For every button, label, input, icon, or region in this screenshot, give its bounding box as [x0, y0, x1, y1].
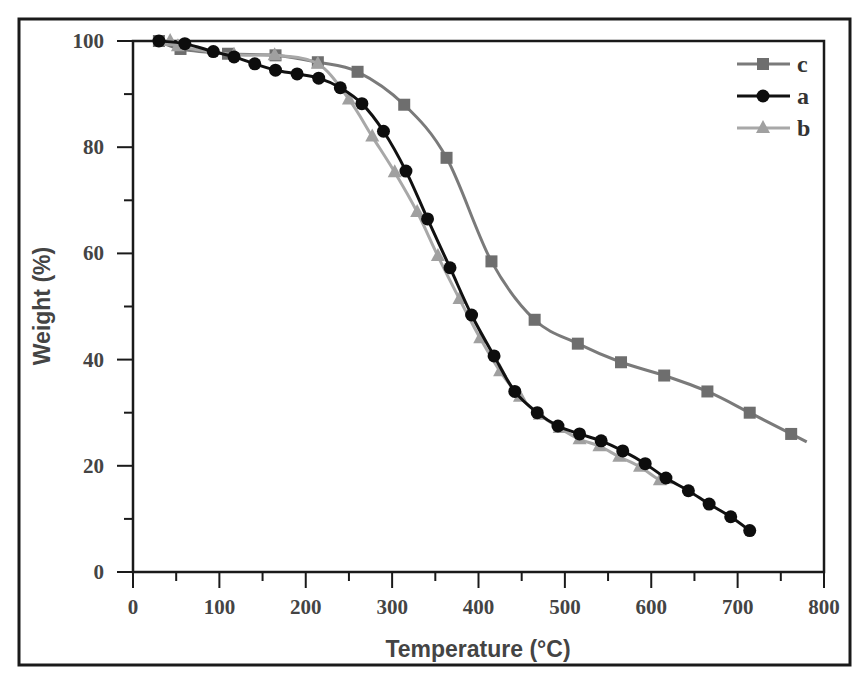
circle-marker [178, 37, 191, 50]
circle-marker [443, 261, 456, 274]
y-tick-label: 60 [83, 241, 104, 265]
circle-marker [377, 125, 390, 138]
circle-marker [724, 510, 737, 523]
circle-marker [421, 212, 434, 225]
y-tick-label: 80 [83, 135, 104, 159]
x-tick-label: 600 [636, 595, 668, 619]
legend-item-b: b [737, 115, 810, 141]
y-tick-label: 40 [83, 348, 104, 372]
circle-marker [616, 444, 629, 457]
y-tick-label: 20 [83, 454, 104, 478]
circle-marker [508, 385, 521, 398]
circle-marker [682, 484, 695, 497]
circle-marker [228, 50, 241, 63]
circle-marker [248, 57, 261, 70]
circle-marker [291, 67, 304, 80]
y-axis-title: Weight (%) [29, 247, 55, 365]
x-tick-label: 100 [204, 595, 236, 619]
x-tick-label: 200 [290, 595, 322, 619]
outer-frame [19, 19, 850, 665]
series-line [170, 41, 673, 483]
tga-chart: 0100200300400500600700800 020406080100 T… [0, 0, 863, 687]
circle-marker [207, 45, 220, 58]
x-tick-label: 300 [376, 595, 408, 619]
square-marker [658, 370, 670, 382]
y-tick-label: 0 [94, 560, 105, 584]
square-marker [615, 356, 627, 368]
square-marker [785, 428, 797, 440]
square-marker [441, 152, 453, 164]
circle-marker [595, 434, 608, 447]
square-marker [398, 99, 410, 111]
circle-marker [703, 498, 716, 511]
series-line [159, 41, 807, 442]
circle-marker [743, 524, 756, 537]
x-tick-label: 700 [722, 595, 754, 619]
circle-marker [551, 419, 564, 432]
y-tick-labels: 020406080100 [73, 29, 105, 584]
x-axis-title: Temperature (°C) [385, 636, 570, 662]
series-c [153, 35, 807, 442]
square-marker [529, 314, 541, 326]
x-tick-label: 400 [463, 595, 495, 619]
circle-marker [639, 457, 652, 470]
legend-item-c: c [737, 51, 808, 77]
x-tick-label: 500 [549, 595, 581, 619]
circle-marker [269, 64, 282, 77]
circle-marker [659, 472, 672, 485]
circle-marker [573, 427, 586, 440]
svg-text:a: a [797, 83, 809, 109]
circle-marker [465, 308, 478, 321]
square-marker [485, 255, 497, 267]
x-tick-label: 800 [808, 595, 840, 619]
circle-marker [312, 72, 325, 85]
series-b [163, 33, 673, 485]
data-series [152, 33, 806, 537]
circle-marker [152, 35, 165, 48]
x-tick-label: 0 [128, 595, 139, 619]
legend-item-a: a [737, 83, 809, 109]
circle-marker [531, 406, 544, 419]
svg-text:c: c [797, 51, 808, 77]
square-marker [701, 385, 713, 397]
square-marker [572, 338, 584, 350]
square-marker-icon [757, 58, 769, 70]
x-tick-labels: 0100200300400500600700800 [128, 595, 840, 619]
circle-marker [334, 81, 347, 94]
svg-text:b: b [797, 115, 810, 141]
circle-marker [488, 349, 501, 362]
circle-marker [399, 165, 412, 178]
square-marker [352, 66, 364, 78]
plot-area-frame [133, 41, 824, 572]
y-tick-label: 100 [73, 29, 105, 53]
legend: c a b [737, 51, 810, 141]
square-marker [744, 407, 756, 419]
circle-marker-icon [757, 90, 770, 103]
circle-marker [355, 97, 368, 110]
